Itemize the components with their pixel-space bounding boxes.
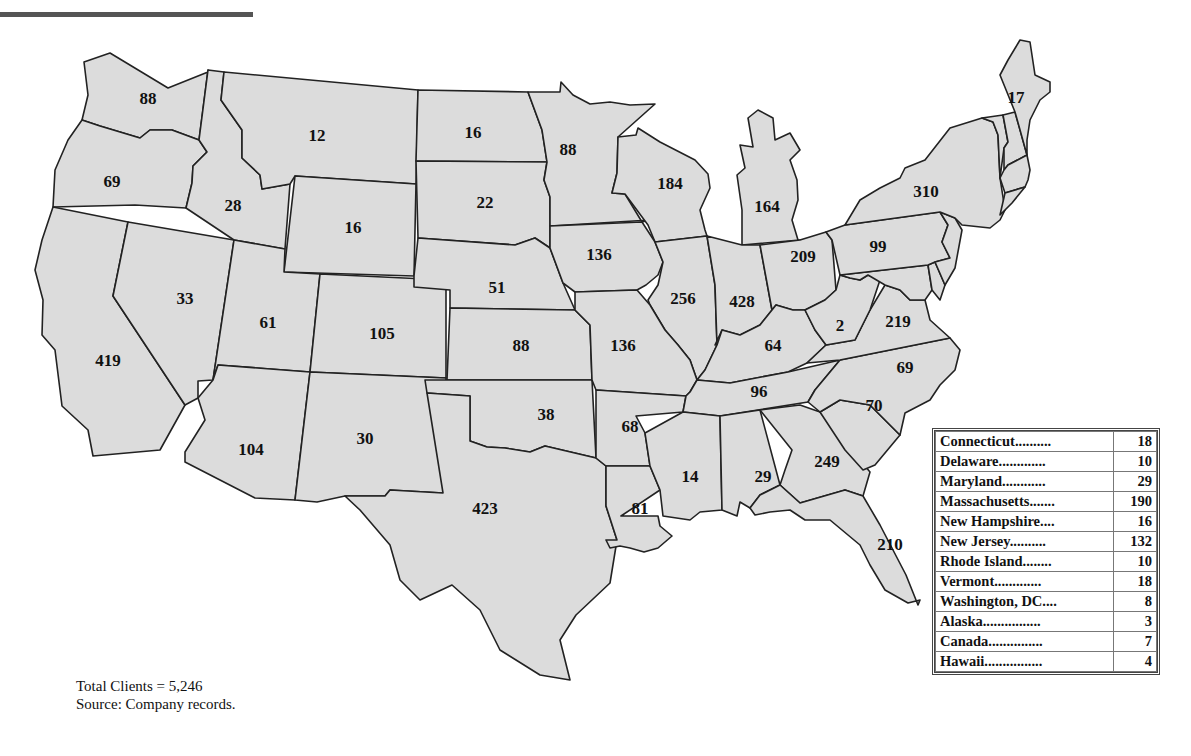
state-value-LA: 81 <box>632 499 649 518</box>
source-note: Source: Company records. <box>76 695 236 713</box>
state-value-MN: 88 <box>560 140 577 159</box>
legend-table: Connecticut..........18Delaware.........… <box>935 431 1157 672</box>
state-value-AR: 68 <box>622 417 639 436</box>
legend-label: Massachusetts....... <box>936 492 1114 512</box>
state-value-SD: 22 <box>477 193 494 212</box>
legend-value: 8 <box>1114 592 1157 612</box>
legend-row: Hawaii................4 <box>936 652 1157 672</box>
legend-value: 16 <box>1114 512 1157 532</box>
state-value-NM: 30 <box>357 429 374 448</box>
state-value-FL: 210 <box>877 535 903 554</box>
legend-value: 10 <box>1114 552 1157 572</box>
state-value-OH: 209 <box>790 247 816 266</box>
state-value-CA: 419 <box>95 351 121 370</box>
state-value-IL: 256 <box>670 289 696 308</box>
legend-row: Vermont.............18 <box>936 572 1157 592</box>
legend-value: 29 <box>1114 472 1157 492</box>
state-value-MO: 136 <box>610 336 636 355</box>
state-value-NV: 33 <box>177 289 194 308</box>
state-value-WV: 2 <box>836 316 845 335</box>
legend-label: New Hampshire.... <box>936 512 1114 532</box>
legend-label: Canada............... <box>936 632 1114 652</box>
state-value-MS: 14 <box>682 467 700 486</box>
legend-row: Rhode Island........10 <box>936 552 1157 572</box>
state-value-TN: 96 <box>751 382 768 401</box>
legend-value: 18 <box>1114 572 1157 592</box>
state-value-OK: 38 <box>538 405 555 424</box>
state-value-MI: 164 <box>754 197 780 216</box>
legend-label: Alaska................ <box>936 612 1114 632</box>
state-value-KY: 64 <box>765 336 783 355</box>
state-value-AZ: 104 <box>238 440 264 459</box>
state-value-WA: 88 <box>140 89 157 108</box>
legend-value: 4 <box>1114 652 1157 672</box>
legend-label: New Jersey.......... <box>936 532 1114 552</box>
state-NY <box>845 118 1005 228</box>
state-value-OR: 69 <box>104 172 121 191</box>
state-value-NE: 51 <box>489 278 506 297</box>
legend-row: Maryland............29 <box>936 472 1157 492</box>
state-value-NY: 310 <box>913 182 939 201</box>
legend-value: 3 <box>1114 612 1157 632</box>
legend-value: 7 <box>1114 632 1157 652</box>
legend-value: 132 <box>1114 532 1157 552</box>
footnote: Total Clients = 5,246 Source: Company re… <box>76 677 236 713</box>
state-value-PA: 99 <box>870 237 887 256</box>
legend-row: Alaska................3 <box>936 612 1157 632</box>
legend-label: Delaware............. <box>936 452 1114 472</box>
state-value-WY: 16 <box>345 218 362 237</box>
legend-label: Rhode Island........ <box>936 552 1114 572</box>
state-value-KS: 88 <box>513 336 530 355</box>
state-MI <box>737 110 800 245</box>
legend-label: Connecticut.......... <box>936 432 1114 452</box>
legend-label: Washington, DC.... <box>936 592 1114 612</box>
state-OH <box>760 232 836 310</box>
state-value-ME: 17 <box>1008 88 1026 107</box>
state-value-UT: 61 <box>260 313 277 332</box>
legend-row: Delaware.............10 <box>936 452 1157 472</box>
legend-label: Maryland............ <box>936 472 1114 492</box>
state-value-WI: 184 <box>657 174 683 193</box>
state-ND <box>416 90 547 162</box>
legend-row: Canada...............7 <box>936 632 1157 652</box>
small-states-legend: Connecticut..........18Delaware.........… <box>932 428 1160 675</box>
state-AZ <box>185 365 310 500</box>
state-value-MT: 12 <box>309 126 326 145</box>
state-value-CO: 105 <box>369 324 395 343</box>
legend-value: 190 <box>1114 492 1157 512</box>
state-value-IA: 136 <box>586 245 612 264</box>
state-value-VA: 219 <box>885 312 911 331</box>
legend-value: 10 <box>1114 452 1157 472</box>
legend-row: Washington, DC....8 <box>936 592 1157 612</box>
state-value-NC: 69 <box>897 358 914 377</box>
state-value-TX: 423 <box>472 499 498 518</box>
state-value-IN: 428 <box>729 292 755 311</box>
state-value-GA: 249 <box>814 452 840 471</box>
legend-row: Massachusetts.......190 <box>936 492 1157 512</box>
legend-row: New Hampshire....16 <box>936 512 1157 532</box>
legend-row: New Jersey..........132 <box>936 532 1157 552</box>
state-value-ID: 28 <box>225 196 242 215</box>
legend-label: Hawaii................ <box>936 652 1114 672</box>
legend-value: 18 <box>1114 432 1157 452</box>
state-value-AL: 29 <box>755 467 772 486</box>
state-value-SC: 70 <box>866 396 883 415</box>
total-clients: Total Clients = 5,246 <box>76 677 236 695</box>
state-value-ND: 16 <box>465 123 482 142</box>
legend-row: Connecticut..........18 <box>936 432 1157 452</box>
legend-label: Vermont............. <box>936 572 1114 592</box>
